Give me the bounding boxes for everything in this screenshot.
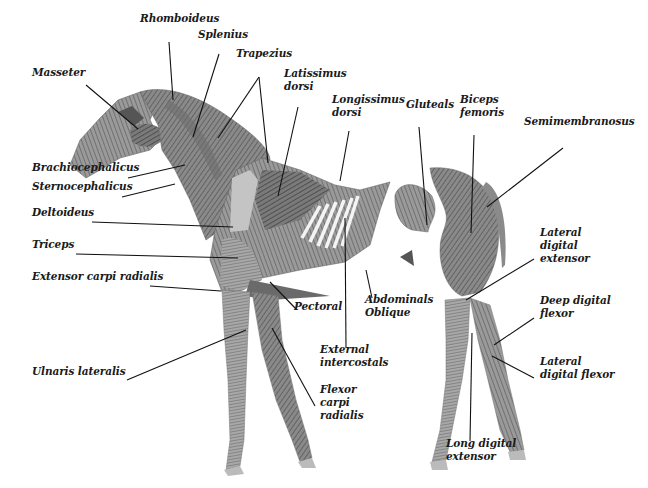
leader-line-semimembranosus bbox=[487, 148, 563, 207]
front-left-leg bbox=[222, 290, 250, 470]
label-lateral-digital-flexor: Lateral digital flexor bbox=[540, 355, 615, 381]
label-pectoral: Pectoral bbox=[294, 300, 342, 313]
label-ulnaris-lateralis: Ulnaris lateralis bbox=[32, 365, 126, 378]
leader-line-long-digital-extensor bbox=[470, 333, 472, 441]
label-semimembranosus: Semimembranosus bbox=[524, 115, 635, 128]
hind-right-leg bbox=[470, 298, 524, 452]
label-splenius: Splenius bbox=[198, 28, 248, 41]
label-lateral-digital-extensor: Lateral digital extensor bbox=[540, 226, 590, 265]
front-right-leg bbox=[252, 292, 312, 462]
label-latissimus-dorsi: Latissimus dorsi bbox=[284, 67, 347, 93]
label-masseter: Masseter bbox=[32, 66, 85, 79]
leader-line-longissimus-dorsi bbox=[340, 131, 349, 181]
horse-muscle-diagram: RhomboideusSpleniusTrapeziusLatissimus d… bbox=[0, 0, 648, 488]
leader-line-deep-digital-flexor bbox=[494, 318, 534, 345]
label-brachiocephalicus: Brachiocephalicus bbox=[32, 161, 139, 174]
label-biceps-femoris: Biceps femoris bbox=[460, 93, 504, 119]
label-triceps: Triceps bbox=[32, 238, 74, 251]
label-flexor-carpi-radialis: Flexor carpi radialis bbox=[320, 383, 364, 422]
label-gluteals: Gluteals bbox=[406, 98, 454, 111]
label-extensor-carpi-radialis: Extensor carpi radialis bbox=[32, 270, 163, 283]
label-deltoideus: Deltoideus bbox=[32, 206, 94, 219]
label-long-digital-extensor: Long digital extensor bbox=[446, 437, 516, 463]
label-deep-digital-flexor: Deep digital flexor bbox=[540, 294, 611, 320]
leader-line-extensor-carpi-radialis bbox=[150, 286, 221, 291]
label-sternocephalicus: Sternocephalicus bbox=[32, 180, 132, 193]
label-abdominals-oblique: Abdominals Oblique bbox=[365, 293, 433, 319]
label-external-intercostals: External intercostals bbox=[320, 343, 388, 369]
label-trapezius: Trapezius bbox=[236, 47, 292, 60]
label-longissimus-dorsi: Longissimus dorsi bbox=[332, 93, 405, 119]
label-rhomboideus: Rhomboideus bbox=[140, 12, 219, 25]
gluteal-shape bbox=[395, 185, 435, 232]
